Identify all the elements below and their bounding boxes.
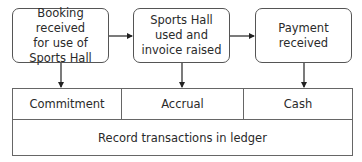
ledger-footer-row: Record transactions in ledger bbox=[13, 120, 352, 155]
accounting-flow-diagram: Booking received for use of Sports Hall … bbox=[0, 0, 362, 162]
ledger-footer-label: Record transactions in ledger bbox=[98, 131, 267, 145]
ledger-cell-accrual: Accrual bbox=[122, 89, 244, 119]
ledger-table: Commitment Accrual Cash Record transacti… bbox=[12, 88, 353, 156]
stage-booking-label: Booking received for use of Sports Hall bbox=[17, 6, 104, 66]
ledger-cell-cash: Cash bbox=[244, 89, 352, 119]
stage-booking-received: Booking received for use of Sports Hall bbox=[12, 8, 109, 63]
stage-payment-received: Payment received bbox=[255, 8, 352, 63]
stage-hall-used-invoice-raised: Sports Hall used and invoice raised bbox=[133, 8, 230, 63]
stage-usage-label: Sports Hall used and invoice raised bbox=[142, 13, 222, 58]
stage-payment-label: Payment received bbox=[278, 21, 328, 51]
ledger-basis-row: Commitment Accrual Cash bbox=[13, 89, 352, 120]
ledger-cell-commitment: Commitment bbox=[13, 89, 122, 119]
